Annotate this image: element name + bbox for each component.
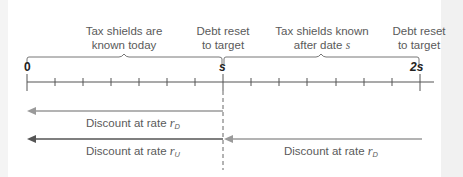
annotation-line: Debt reset: [389, 24, 449, 38]
arrow-label-rd-first: Discount at rate rD: [86, 116, 180, 131]
rate-subscript: D: [175, 122, 180, 131]
arrow-discount-rd-second-period: [224, 135, 422, 143]
annotation-line: Debt reset: [193, 24, 253, 38]
annotation-text: after date: [294, 39, 346, 51]
tick-label-zero: 0: [24, 60, 31, 74]
annotation-line: Tax shields known: [272, 24, 372, 38]
tick-label-2s: 2s: [410, 60, 423, 74]
annotation-tax-shields-known-after-s: Tax shields known after date s: [272, 24, 372, 52]
arrow-discount-ru: [27, 135, 223, 143]
arrow-label-ru: Discount at rate rU: [86, 144, 180, 159]
brace-right: [224, 54, 419, 64]
annotation-line: after date s: [272, 38, 372, 52]
tick-label-s: s: [219, 60, 226, 74]
annotation-tax-shields-known-today: Tax shields are known today: [84, 24, 164, 52]
brace-left: [27, 54, 222, 64]
rate-subscript: D: [373, 150, 378, 159]
annotation-debt-reset-2s: Debt reset to target: [389, 24, 449, 52]
annotation-line: known today: [84, 38, 164, 52]
annotation-line: Tax shields are: [84, 24, 164, 38]
arrow-label-text: Discount at rate: [284, 145, 368, 157]
annotation-line: to target: [389, 38, 449, 52]
rate-subscript: U: [175, 150, 180, 159]
variable-s: s: [346, 39, 350, 51]
annotation-debt-reset-s: Debt reset to target: [193, 24, 253, 52]
annotation-line: to target: [193, 38, 253, 52]
arrow-label-text: Discount at rate: [86, 117, 170, 129]
arrow-discount-rd-first-period: [27, 107, 223, 115]
arrow-label-text: Discount at rate: [86, 145, 170, 157]
arrow-label-rd-second: Discount at rate rD: [284, 144, 378, 159]
